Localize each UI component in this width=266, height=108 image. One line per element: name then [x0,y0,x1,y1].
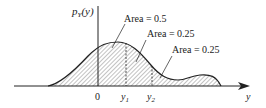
y-axis-label: pY(y) [71,5,94,19]
pdf-diagram: pY(y) Area = 0.5 Area = 0.25 Area = 0.25… [0,0,266,108]
tick-zero: 0 [95,91,100,102]
x-axis-label: y [245,91,251,102]
tick-y2: y2 [146,91,155,104]
annotation-area-1: Area = 0.25 [147,28,195,39]
annotation-area-0: Area = 0.5 [124,13,167,24]
annotation-area-2: Area = 0.25 [172,44,220,55]
leader-area-2 [160,56,172,78]
tick-y1: y1 [120,91,129,104]
